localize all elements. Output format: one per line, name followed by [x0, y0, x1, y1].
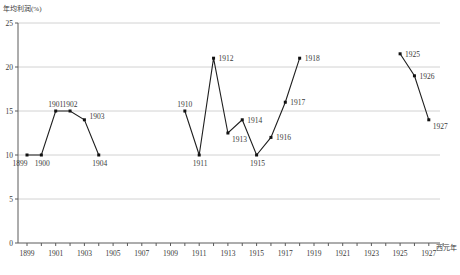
x-tick-label-1905: 1905	[106, 249, 121, 258]
chart-container: 0510152025189919011903190519071909191119…	[0, 0, 460, 275]
data-point-1903	[83, 118, 86, 121]
x-tick-label-1915: 1915	[249, 249, 264, 258]
data-point-label-1902: 1902	[63, 100, 78, 109]
x-tick-label-1909: 1909	[163, 249, 178, 258]
x-tick-label-1907: 1907	[134, 249, 149, 258]
data-point-label-1911: 1911	[193, 159, 208, 168]
x-tick-label-1921: 1921	[335, 249, 350, 258]
data-point-1926	[413, 74, 416, 77]
data-point-1918	[298, 57, 301, 60]
profit-line-chart: 0510152025189919011903190519071909191119…	[0, 0, 460, 275]
x-tick-label-1917: 1917	[278, 249, 293, 258]
x-tick-label-1903: 1903	[77, 249, 92, 258]
data-point-label-1899: 1899	[13, 159, 28, 168]
y-tick-label-25: 25	[6, 19, 14, 28]
data-point-1925	[399, 52, 402, 55]
y-tick-label-5: 5	[9, 195, 13, 204]
data-point-1916	[269, 136, 272, 139]
data-point-label-1917: 1917	[290, 98, 305, 107]
data-point-1901	[54, 110, 57, 113]
x-axis-title: 西元年	[436, 242, 457, 252]
x-tick-label-1899: 1899	[20, 249, 35, 258]
data-point-label-1927: 1927	[433, 122, 448, 131]
data-point-1902	[69, 110, 72, 113]
x-tick-label-1925: 1925	[393, 249, 408, 258]
data-point-1912	[212, 57, 215, 60]
x-tick-label-1913: 1913	[220, 249, 235, 258]
data-point-1900	[40, 154, 43, 157]
data-point-label-1916: 1916	[276, 133, 291, 142]
data-point-1927	[427, 118, 430, 121]
y-tick-label-20: 20	[6, 63, 14, 72]
data-point-label-1926: 1926	[419, 72, 434, 81]
x-tick-label-1923: 1923	[364, 249, 379, 258]
data-point-1911	[198, 154, 201, 157]
data-point-label-1903: 1903	[89, 112, 104, 121]
data-point-label-1901: 1901	[48, 100, 63, 109]
data-point-label-1910: 1910	[177, 100, 192, 109]
data-point-label-1925: 1925	[405, 50, 420, 59]
x-tick-label-1911: 1911	[192, 249, 207, 258]
data-point-label-1913: 1913	[232, 135, 247, 144]
data-point-label-1915: 1915	[250, 159, 265, 168]
data-point-1917	[284, 101, 287, 104]
y-axis-title: 年均利润(%)	[3, 3, 42, 13]
series-line-segment-1925-1927	[400, 54, 429, 120]
data-point-label-1918: 1918	[305, 54, 320, 63]
data-point-1899	[26, 154, 29, 157]
data-point-1915	[255, 154, 258, 157]
y-tick-label-0: 0	[9, 239, 13, 248]
data-point-label-1914: 1914	[247, 116, 262, 125]
x-tick-label-1927: 1927	[421, 249, 436, 258]
data-point-label-1912: 1912	[219, 54, 234, 63]
y-tick-label-15: 15	[6, 107, 14, 116]
data-point-1913	[226, 132, 229, 135]
series-line-segment-1899-1904	[27, 111, 99, 155]
data-point-1904	[97, 154, 100, 157]
data-point-label-1900: 1900	[35, 159, 50, 168]
data-point-label-1904: 1904	[92, 159, 107, 168]
x-tick-label-1919: 1919	[307, 249, 322, 258]
data-point-1914	[241, 118, 244, 121]
data-point-1910	[183, 110, 186, 113]
x-tick-label-1901: 1901	[48, 249, 63, 258]
